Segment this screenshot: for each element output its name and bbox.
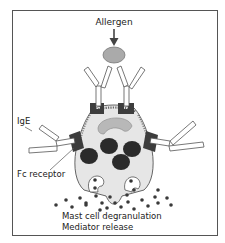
ige-label: IgE bbox=[17, 116, 30, 126]
granule bbox=[112, 154, 130, 170]
granule bbox=[80, 148, 98, 164]
granule bbox=[100, 138, 118, 154]
mast-cell-degranulation-diagram: Allergen bbox=[0, 0, 225, 243]
allergen-particle bbox=[103, 47, 125, 63]
fc-receptor-label: Fc receptor bbox=[17, 169, 66, 179]
caption-mediator-release: Mediator release bbox=[62, 222, 133, 232]
granule bbox=[123, 141, 141, 157]
allergen-label: Allergen bbox=[95, 17, 132, 27]
caption-degranulation: Mast cell degranulation bbox=[62, 211, 162, 221]
